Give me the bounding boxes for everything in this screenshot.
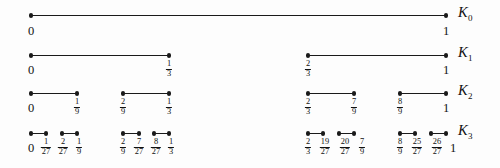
fraction: 2627 (432, 138, 442, 157)
fraction: 23 (305, 138, 311, 157)
tick-label: 13 (166, 98, 172, 117)
tick-label: 79 (359, 138, 365, 157)
tick-label: 23 (305, 138, 311, 157)
fraction-denominator: 27 (134, 148, 144, 157)
endpoint-dot (152, 131, 157, 136)
integer-tick: 1 (450, 138, 456, 155)
endpoint-dot (29, 53, 34, 58)
endpoint-dot (60, 131, 65, 136)
tick-label: 23 (305, 98, 311, 117)
interval-segment (308, 93, 354, 94)
fraction: 19 (76, 138, 82, 157)
endpoint-dot (306, 131, 311, 136)
fraction: 89 (397, 98, 403, 117)
cantor-set-figure: 01K0013231K101929132379891K2012722719297… (0, 0, 500, 168)
fraction-denominator: 27 (41, 148, 51, 157)
endpoint-dot (352, 131, 357, 136)
fraction-denominator: 9 (397, 108, 403, 117)
tick-label: 2627 (432, 138, 442, 157)
endpoint-dot (352, 91, 357, 96)
fraction: 727 (134, 138, 144, 157)
endpoint-dot (167, 53, 172, 58)
fraction: 23 (305, 98, 311, 117)
tick-label: 227 (58, 138, 68, 157)
set-label-letter: K (458, 122, 468, 138)
fraction-denominator: 9 (76, 148, 82, 157)
endpoint-dot (29, 131, 34, 136)
fraction-denominator: 27 (432, 148, 442, 157)
fraction-denominator: 3 (166, 70, 172, 79)
fraction-denominator: 9 (74, 108, 80, 117)
endpoint-dot (398, 131, 403, 136)
fraction: 127 (41, 138, 51, 157)
fraction-denominator: 9 (120, 148, 126, 157)
cantor-row-k3: 0127227192972782713231927202779892527262… (0, 0, 500, 40)
set-label-k3: K3 (458, 122, 472, 141)
set-label-letter: K (458, 44, 468, 60)
endpoint-dot (337, 131, 342, 136)
endpoint-dot (306, 91, 311, 96)
fraction: 1927 (320, 138, 330, 157)
tick-label: 29 (120, 138, 126, 157)
fraction: 2027 (340, 138, 350, 157)
endpoint-dot (429, 131, 434, 136)
tick-label: 1 (443, 60, 449, 77)
tick-label: 1 (443, 98, 449, 115)
tick-label: 13 (166, 60, 172, 79)
fraction-denominator: 3 (166, 108, 172, 117)
integer-tick: 1 (443, 98, 449, 115)
fraction: 89 (397, 138, 403, 157)
endpoint-dot (306, 53, 311, 58)
endpoint-dot (75, 91, 80, 96)
interval-segment (308, 55, 446, 56)
tick-label: 127 (41, 138, 51, 157)
tick-label: 2527 (412, 138, 422, 157)
endpoint-dot (321, 131, 326, 136)
fraction: 23 (305, 60, 311, 79)
fraction-denominator: 9 (397, 148, 403, 157)
fraction: 29 (120, 98, 126, 117)
tick-label: 727 (134, 138, 144, 157)
endpoint-dot (398, 91, 403, 96)
tick-label: 0 (28, 138, 34, 155)
fraction: 13 (168, 138, 174, 157)
tick-label: 2027 (340, 138, 350, 157)
fraction: 227 (58, 138, 68, 157)
endpoint-dot (137, 131, 142, 136)
tick-label: 0 (28, 60, 34, 77)
endpoint-dot (121, 131, 126, 136)
fraction: 79 (351, 98, 357, 117)
fraction: 19 (74, 98, 80, 117)
fraction-denominator: 27 (340, 148, 350, 157)
set-label-k1: K1 (458, 44, 472, 63)
endpoint-dot (444, 91, 449, 96)
interval-segment (31, 55, 169, 56)
tick-label: 19 (74, 98, 80, 117)
interval-segment (123, 93, 169, 94)
endpoint-dot (167, 131, 172, 136)
fraction-denominator: 27 (151, 148, 161, 157)
interval-segment (31, 93, 77, 94)
fraction-denominator: 9 (120, 108, 126, 117)
integer-tick: 0 (28, 60, 34, 77)
set-label-subscript: 1 (468, 53, 473, 63)
tick-label: 19 (76, 138, 82, 157)
interval-segment (400, 93, 446, 94)
fraction-denominator: 9 (351, 108, 357, 117)
endpoint-dot (75, 131, 80, 136)
tick-label: 89 (397, 138, 403, 157)
endpoint-dot (444, 131, 449, 136)
tick-label: 89 (397, 98, 403, 117)
fraction-denominator: 3 (305, 108, 311, 117)
endpoint-dot (413, 131, 418, 136)
fraction: 79 (359, 138, 365, 157)
endpoint-dot (167, 91, 172, 96)
set-label-letter: K (458, 82, 468, 98)
endpoint-dot (444, 53, 449, 58)
set-label-subscript: 2 (468, 91, 473, 101)
endpoint-dot (121, 91, 126, 96)
integer-tick: 1 (443, 60, 449, 77)
integer-tick: 0 (28, 138, 34, 155)
tick-label: 23 (305, 60, 311, 79)
fraction-denominator: 27 (412, 148, 422, 157)
